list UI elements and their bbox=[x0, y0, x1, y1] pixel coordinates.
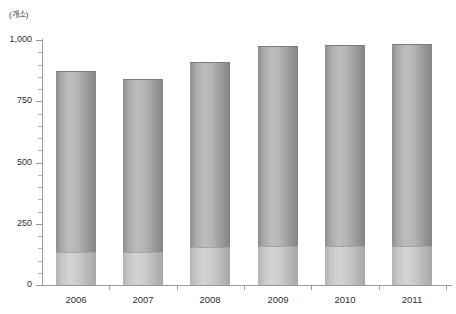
bar-segment-upper bbox=[56, 71, 96, 252]
y-tick-label: 500 bbox=[0, 157, 32, 167]
x-tick-label-2010: 2010 bbox=[315, 294, 375, 305]
y-tick-minor bbox=[38, 138, 42, 139]
y-tick-minor bbox=[38, 187, 42, 188]
y-tick-minor bbox=[38, 248, 42, 249]
bar-chart: (개소) 02505007501,000 2006200720082009201… bbox=[0, 0, 456, 314]
y-tick-major bbox=[36, 163, 42, 164]
y-axis-unit-label: (개소) bbox=[9, 8, 28, 19]
bar-segment-lower bbox=[392, 246, 432, 285]
y-tick-minor bbox=[38, 199, 42, 200]
y-tick-minor bbox=[38, 126, 42, 127]
y-tick-major bbox=[36, 101, 42, 102]
y-tick-minor bbox=[38, 77, 42, 78]
bar-2011[interactable] bbox=[392, 44, 432, 285]
bar-segment-upper bbox=[123, 79, 163, 252]
x-tick-label-2009: 2009 bbox=[248, 294, 308, 305]
y-tick-minor bbox=[38, 212, 42, 213]
y-tick-major bbox=[36, 285, 42, 286]
bar-segment-lower bbox=[190, 247, 230, 285]
y-tick-minor bbox=[38, 65, 42, 66]
y-tick-label: 0 bbox=[0, 279, 32, 289]
bar-segment-lower bbox=[258, 246, 298, 285]
bar-segment-lower bbox=[325, 246, 365, 285]
x-axis-line bbox=[42, 285, 452, 286]
y-tick-minor bbox=[38, 273, 42, 274]
y-tick-minor bbox=[38, 236, 42, 237]
bar-2007[interactable] bbox=[123, 79, 163, 285]
y-tick-minor bbox=[38, 114, 42, 115]
y-tick-major bbox=[36, 224, 42, 225]
y-tick-label: 250 bbox=[0, 218, 32, 228]
bar-2006[interactable] bbox=[56, 71, 96, 285]
x-tick bbox=[109, 285, 110, 290]
bar-2010[interactable] bbox=[325, 45, 365, 285]
y-tick-minor bbox=[38, 150, 42, 151]
bar-segment-upper bbox=[392, 44, 432, 246]
bar-segment-upper bbox=[258, 46, 298, 246]
x-tick bbox=[446, 285, 447, 290]
y-tick-minor bbox=[38, 89, 42, 90]
bar-segment-lower bbox=[123, 252, 163, 285]
bar-2009[interactable] bbox=[258, 46, 298, 285]
x-tick-label-2007: 2007 bbox=[113, 294, 173, 305]
y-tick-minor bbox=[38, 52, 42, 53]
x-tick bbox=[244, 285, 245, 290]
bar-segment-upper bbox=[190, 62, 230, 247]
y-axis-line bbox=[42, 39, 43, 286]
x-tick bbox=[177, 285, 178, 290]
x-tick-label-2011: 2011 bbox=[382, 294, 442, 305]
y-tick-major bbox=[36, 40, 42, 41]
y-tick-minor bbox=[38, 175, 42, 176]
y-tick-label: 750 bbox=[0, 95, 32, 105]
x-tick bbox=[311, 285, 312, 290]
x-tick-label-2006: 2006 bbox=[46, 294, 106, 305]
x-tick bbox=[379, 285, 380, 290]
x-tick-label-2008: 2008 bbox=[180, 294, 240, 305]
y-tick-label: 1,000 bbox=[0, 34, 32, 44]
bar-segment-upper bbox=[325, 45, 365, 246]
y-tick-minor bbox=[38, 261, 42, 262]
bar-2008[interactable] bbox=[190, 62, 230, 285]
bar-segment-lower bbox=[56, 252, 96, 285]
